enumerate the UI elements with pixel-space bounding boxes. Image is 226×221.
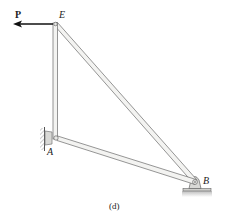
truss-diagram — [0, 0, 226, 221]
point-label-e: E — [59, 10, 65, 20]
force-label-p: P — [15, 10, 21, 20]
figure-caption: (d) — [109, 202, 120, 211]
pin-e — [54, 22, 58, 26]
point-label-b: B — [203, 176, 209, 186]
point-label-a: A — [47, 147, 53, 157]
member-ea — [53, 23, 58, 139]
pin-a — [54, 136, 58, 140]
force-arrow-p — [13, 21, 53, 28]
